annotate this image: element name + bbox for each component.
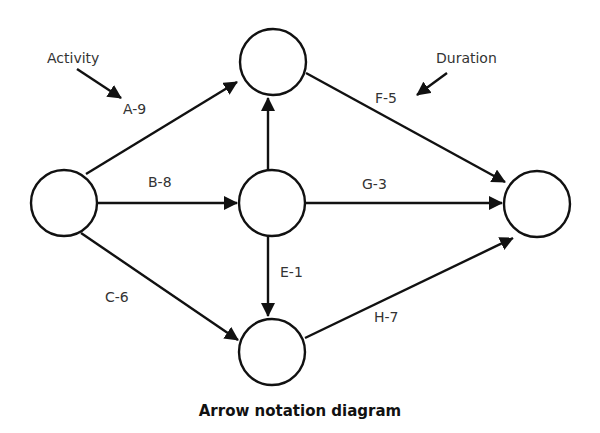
edge-label-h: H-7 xyxy=(374,309,399,325)
edge-label-e: E-1 xyxy=(280,264,303,280)
edge-f xyxy=(306,73,505,182)
diagram-caption: Arrow notation diagram xyxy=(199,402,401,420)
activity-annotation: Activity xyxy=(47,50,99,66)
node-bottom xyxy=(239,319,305,385)
edge-a xyxy=(86,82,237,174)
edge-label-c: C-6 xyxy=(105,289,129,305)
edge-label-f: F-5 xyxy=(375,90,397,106)
arrow-notation-diagram: Activity Duration A-9 B-8 C-6 E-1 F-5 G-… xyxy=(0,0,600,433)
edge-c xyxy=(81,233,238,340)
duration-annotation: Duration xyxy=(436,50,497,66)
duration-pointer-arrow xyxy=(417,73,447,95)
edge-label-g: G-3 xyxy=(362,176,387,192)
edge-h xyxy=(305,238,513,338)
activity-pointer-arrow xyxy=(77,69,121,98)
node-start xyxy=(31,170,97,236)
edge-label-b: B-8 xyxy=(148,174,172,190)
node-top xyxy=(240,29,306,95)
node-middle xyxy=(239,170,305,236)
node-end xyxy=(504,171,570,237)
edge-label-a: A-9 xyxy=(123,101,146,117)
